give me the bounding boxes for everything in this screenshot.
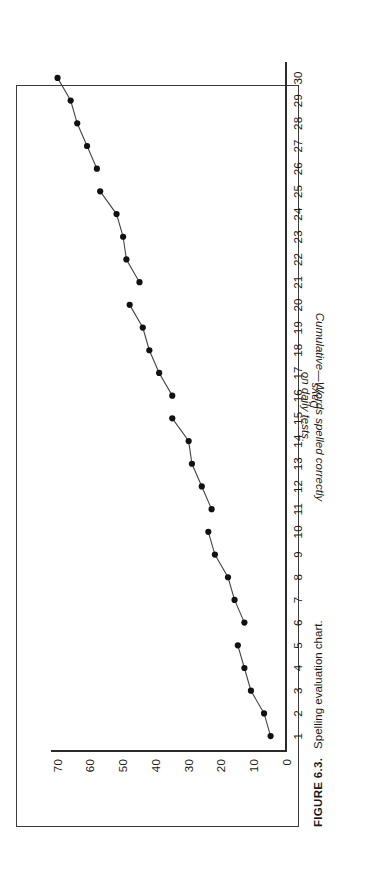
data-point-marker	[74, 120, 80, 126]
data-point-marker	[209, 506, 215, 512]
data-point-marker	[54, 75, 60, 81]
data-point-marker	[169, 415, 175, 421]
plot-area: 010203040506070 123456789101112131415161…	[51, 62, 287, 752]
data-point-marker	[113, 211, 119, 217]
figure-page: 010203040506070 123456789101112131415161…	[0, 0, 366, 869]
data-point-marker	[248, 688, 254, 694]
line-series	[51, 62, 287, 752]
rotated-stage: 010203040506070 123456789101112131415161…	[0, 0, 366, 869]
data-point-marker	[156, 370, 162, 376]
y-tick-label: 70	[52, 759, 64, 772]
data-point-marker	[225, 574, 231, 580]
data-point-marker	[120, 234, 126, 240]
data-point-marker	[68, 97, 74, 103]
data-point-marker	[199, 483, 205, 489]
data-point-marker	[127, 302, 133, 308]
y-tick-label: 10	[248, 759, 260, 772]
data-point-marker	[205, 529, 211, 535]
y-tick-label: 60	[84, 759, 96, 772]
data-point-marker	[84, 143, 90, 149]
y-tick-label: 30	[183, 759, 195, 772]
y-tick-label: 50	[117, 759, 129, 772]
data-point-marker	[241, 665, 247, 671]
data-point-marker	[123, 256, 129, 262]
data-point-marker	[268, 733, 274, 739]
figure-number: FIGURE 6.3.	[312, 758, 324, 827]
data-point-marker	[212, 551, 218, 557]
y-tick-label: 20	[215, 759, 227, 772]
data-point-marker	[241, 620, 247, 626]
figure-caption-text: Spelling evaluation chart.	[312, 620, 324, 749]
series-line-segment	[100, 191, 139, 282]
figure-caption: FIGURE 6.3.Spelling evaluation chart.	[312, 620, 324, 827]
series-line-segment	[238, 645, 271, 736]
data-point-marker	[94, 166, 100, 172]
data-point-marker	[235, 642, 241, 648]
figure-frame: 010203040506070 123456789101112131415161…	[16, 85, 299, 827]
data-point-marker	[169, 393, 175, 399]
data-point-marker	[189, 461, 195, 467]
data-point-marker	[140, 324, 146, 330]
y-tick-label: 40	[150, 759, 162, 772]
data-point-marker	[97, 188, 103, 194]
data-point-marker	[261, 710, 267, 716]
data-point-marker	[186, 438, 192, 444]
data-point-marker	[136, 279, 142, 285]
y-tick-label: 0	[281, 759, 293, 766]
data-point-marker	[146, 347, 152, 353]
y-axis-title-line2: on daily tests.	[298, 62, 312, 752]
data-point-marker	[231, 597, 237, 603]
